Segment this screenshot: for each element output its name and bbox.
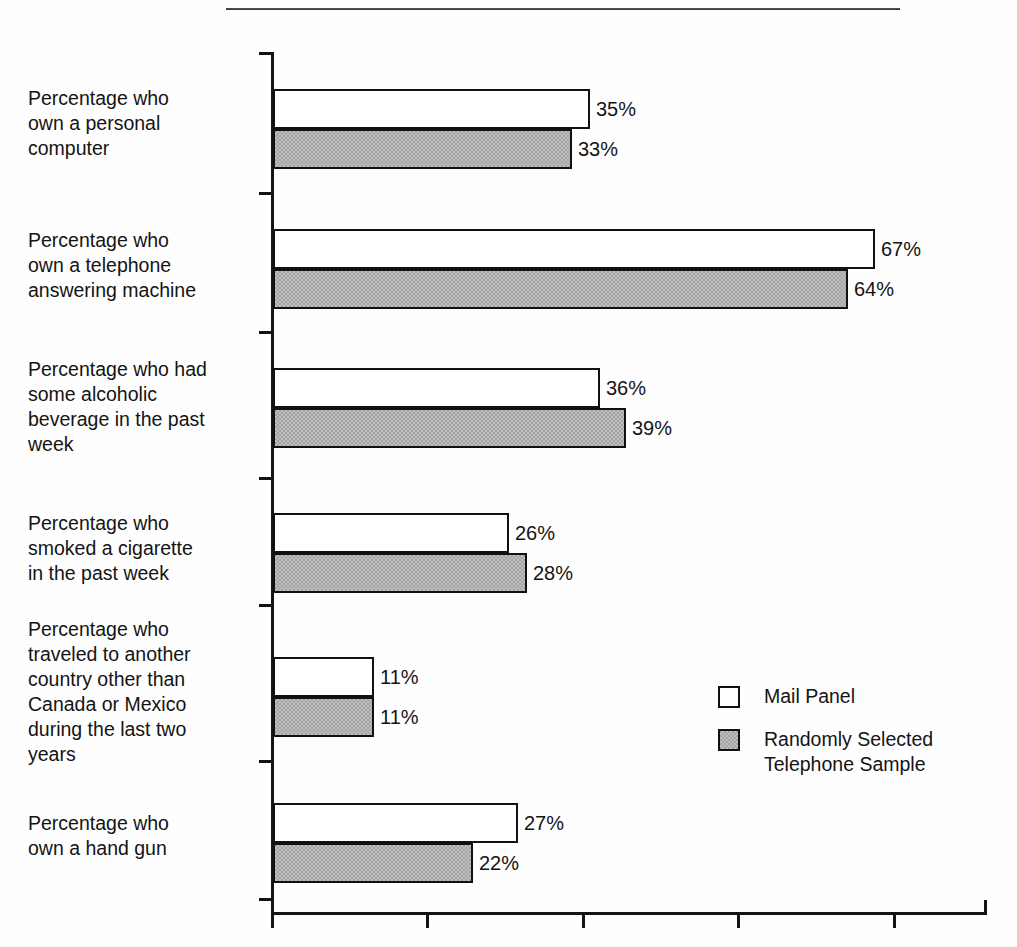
bar-mail-panel[interactable]: 36% xyxy=(273,368,600,408)
category-label: Percentage whoown a hand gun xyxy=(28,811,260,861)
legend-label-mail-panel: Mail Panel xyxy=(764,684,855,709)
x-axis-end-tick xyxy=(984,900,987,915)
y-axis-tick-6 xyxy=(259,898,273,901)
category-label-line: during the last two xyxy=(28,717,260,742)
bar-mail-panel[interactable]: 35% xyxy=(273,89,590,129)
category-label: Percentage who hadsome alcoholicbeverage… xyxy=(28,357,260,457)
category-label-line: Percentage who had xyxy=(28,357,260,382)
category-label: Percentage whotraveled to anothercountry… xyxy=(28,617,260,767)
category-label-line: some alcoholic xyxy=(28,382,260,407)
bar-telephone-sample[interactable]: 28% xyxy=(273,553,527,593)
category-label-line: own a personal xyxy=(28,111,260,136)
bar-value-label: 22% xyxy=(479,852,519,875)
category-label-line: country other than xyxy=(28,667,260,692)
bar-telephone-sample[interactable]: 11% xyxy=(273,697,374,737)
category-label-line: Canada or Mexico xyxy=(28,692,260,717)
bar-value-label: 27% xyxy=(524,812,564,835)
y-axis-tick-4 xyxy=(259,604,273,607)
category-label-line: own a hand gun xyxy=(28,836,260,861)
y-axis-line xyxy=(271,52,274,914)
x-axis-tick-2 xyxy=(582,913,585,928)
bar-value-label: 64% xyxy=(854,278,894,301)
category-label: Percentage whoown a personalcomputer xyxy=(28,86,260,161)
category-label: Percentage whosmoked a cigarettein the p… xyxy=(28,511,260,586)
category-label-line: Percentage who xyxy=(28,617,260,642)
bar-mail-panel[interactable]: 26% xyxy=(273,513,509,553)
bar-mail-panel[interactable]: 67% xyxy=(273,229,875,269)
legend-swatch-white-square-icon xyxy=(718,686,740,708)
x-axis-line xyxy=(271,912,987,915)
horizontal-bar-chart: Percentage whoown a personalcomputer35%3… xyxy=(0,0,1017,947)
category-label-line: Percentage who xyxy=(28,511,260,536)
legend-item-telephone-sample[interactable]: Randomly Selected Telephone Sample xyxy=(718,727,1008,777)
bar-value-label: 11% xyxy=(380,706,419,729)
category-label-line: beverage in the past xyxy=(28,407,260,432)
bar-value-label: 33% xyxy=(578,138,618,161)
bar-telephone-sample[interactable]: 33% xyxy=(273,129,572,169)
category-label-line: in the past week xyxy=(28,561,260,586)
y-axis-tick-5 xyxy=(259,760,273,763)
legend-label-telephone-sample: Randomly Selected Telephone Sample xyxy=(764,727,1008,777)
category-label-line: Percentage who xyxy=(28,811,260,836)
bar-pair: 35%33% xyxy=(273,89,590,169)
bar-value-label: 36% xyxy=(606,377,646,400)
category-label-line: Percentage who xyxy=(28,86,260,111)
bar-pair: 11%11% xyxy=(273,657,374,737)
bar-telephone-sample[interactable]: 22% xyxy=(273,843,473,883)
bar-telephone-sample[interactable]: 64% xyxy=(273,269,848,309)
category-label-line: smoked a cigarette xyxy=(28,536,260,561)
bar-value-label: 26% xyxy=(515,522,555,545)
bar-value-label: 67% xyxy=(881,238,921,261)
bar-pair: 27%22% xyxy=(273,803,518,883)
category-label-line: week xyxy=(28,432,260,457)
category-label-line: Percentage who xyxy=(28,228,260,253)
x-axis-tick-1 xyxy=(426,913,429,928)
bar-mail-panel[interactable]: 27% xyxy=(273,803,518,843)
legend-swatch-gray-square-icon xyxy=(718,729,740,751)
bar-value-label: 11% xyxy=(380,666,419,689)
chart-legend: Mail Panel Randomly Selected Telephone S… xyxy=(718,684,1008,795)
y-axis-tick-2 xyxy=(259,331,273,334)
bar-pair: 67%64% xyxy=(273,229,875,309)
x-axis-tick-4 xyxy=(893,913,896,928)
bar-value-label: 39% xyxy=(632,417,672,440)
title-underline-rule xyxy=(226,8,900,10)
chart-title xyxy=(226,0,900,7)
category-label: Percentage whoown a telephoneanswering m… xyxy=(28,228,260,303)
y-axis-tick-3 xyxy=(259,477,273,480)
category-label-line: computer xyxy=(28,136,260,161)
bar-mail-panel[interactable]: 11% xyxy=(273,657,374,697)
legend-item-mail-panel[interactable]: Mail Panel xyxy=(718,684,1008,709)
y-axis-tick-1 xyxy=(259,192,273,195)
bar-pair: 36%39% xyxy=(273,368,626,448)
category-label-line: answering machine xyxy=(28,278,260,303)
y-axis-tick-0 xyxy=(259,52,273,55)
x-axis-tick-3 xyxy=(737,913,740,928)
bar-value-label: 35% xyxy=(596,98,636,121)
category-label-line: own a telephone xyxy=(28,253,260,278)
bar-telephone-sample[interactable]: 39% xyxy=(273,408,626,448)
bar-value-label: 28% xyxy=(533,562,573,585)
x-axis-tick-0 xyxy=(271,913,274,928)
category-label-line: years xyxy=(28,742,260,767)
bar-pair: 26%28% xyxy=(273,513,527,593)
category-label-line: traveled to another xyxy=(28,642,260,667)
